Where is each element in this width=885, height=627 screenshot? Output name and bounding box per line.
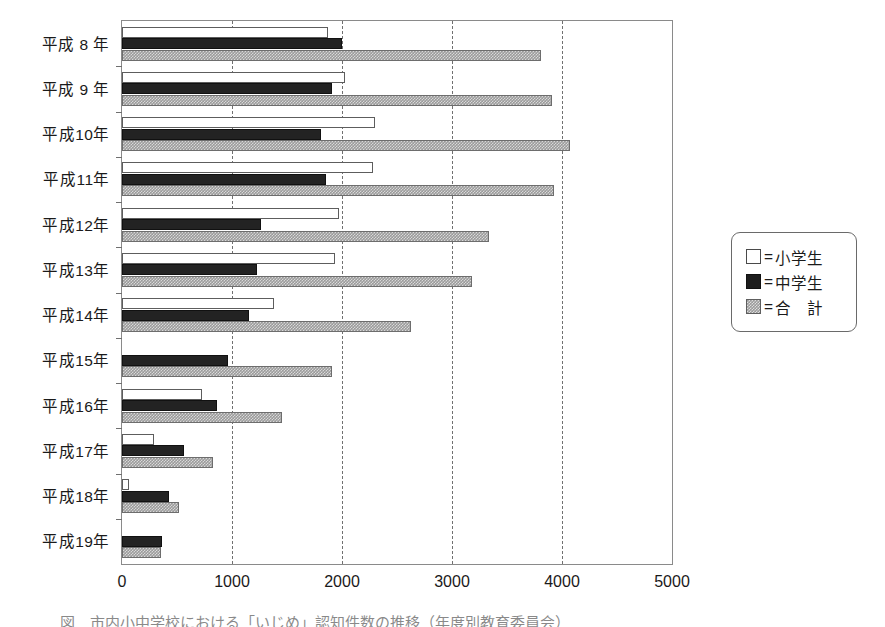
y-axis-tick	[116, 112, 122, 113]
y-axis-tick	[116, 519, 122, 520]
bar-group	[122, 293, 672, 338]
bar-goukei	[122, 276, 472, 287]
bar-shogakusei	[122, 72, 345, 83]
legend-equals-sign: =	[764, 248, 773, 266]
y-axis-tick	[116, 428, 122, 429]
bar-shogakusei	[122, 253, 335, 264]
bar-shogakusei	[122, 389, 202, 400]
bar-chugakusei	[122, 491, 169, 502]
y-axis-label: 平成13年	[42, 258, 110, 280]
bar-group	[122, 428, 672, 473]
bar-goukei	[122, 412, 282, 423]
y-axis-tick	[116, 474, 122, 475]
x-axis-tick-label: 1000	[214, 573, 250, 591]
bar-group	[122, 519, 672, 564]
bar-goukei	[122, 502, 179, 513]
bar-group	[122, 157, 672, 202]
bar-shogakusei	[122, 27, 328, 38]
bar-chugakusei	[122, 174, 326, 185]
x-axis-tick-label: 5000	[654, 573, 690, 591]
bar-shogakusei	[122, 117, 375, 128]
bar-chugakusei	[122, 83, 332, 94]
y-axis-tick	[116, 202, 122, 203]
y-axis-tick	[116, 66, 122, 67]
bar-goukei	[122, 50, 541, 61]
bar-goukei	[122, 95, 552, 106]
bar-goukei	[122, 231, 489, 242]
bar-shogakusei	[122, 208, 339, 219]
legend-label: 中学生	[775, 271, 823, 293]
y-axis-label: 平成 9 年	[42, 77, 110, 99]
bar-chugakusei	[122, 400, 217, 411]
legend-label: 合 計	[775, 296, 823, 318]
y-axis-label: 平成18年	[42, 484, 110, 506]
bar-shogakusei	[122, 298, 274, 309]
bar-shogakusei	[122, 434, 154, 445]
x-axis-tick-label: 3000	[434, 573, 470, 591]
bar-chugakusei	[122, 536, 162, 547]
x-axis-tick-label: 2000	[324, 573, 360, 591]
bar-shogakusei	[122, 162, 373, 173]
chart-figure: 平成 8 年平成 9 年平成10年平成11年平成12年平成13年平成14年平成1…	[0, 0, 885, 627]
bar-goukei	[122, 140, 570, 151]
black-square-icon	[746, 274, 761, 289]
bar-group	[122, 338, 672, 383]
y-axis-label: 平成19年	[42, 529, 110, 551]
bar-group	[122, 112, 672, 157]
y-axis-tick	[116, 293, 122, 294]
y-axis-label-group: 平成 8 年平成 9 年平成10年平成11年平成12年平成13年平成14年平成1…	[0, 20, 118, 565]
bar-chugakusei	[122, 38, 342, 49]
legend-item: =合 計	[746, 294, 846, 319]
bar-chugakusei	[122, 310, 249, 321]
y-axis-tick	[116, 157, 122, 158]
bar-group	[122, 202, 672, 247]
chart-legend: =小学生=中学生=合 計	[731, 232, 857, 332]
y-axis-label: 平成14年	[42, 303, 110, 325]
bar-goukei	[122, 185, 554, 196]
bar-goukei	[122, 321, 411, 332]
legend-item: =小学生	[746, 244, 846, 269]
legend-equals-sign: =	[764, 273, 773, 291]
plot-area	[121, 20, 673, 565]
y-axis-label: 平成 8 年	[42, 32, 110, 54]
bar-goukei	[122, 547, 161, 558]
bar-chugakusei	[122, 264, 257, 275]
y-axis-tick	[116, 383, 122, 384]
hatched-square-icon	[746, 299, 761, 314]
bar-group	[122, 21, 672, 66]
y-axis-label: 平成17年	[42, 439, 110, 461]
bar-chugakusei	[122, 445, 184, 456]
x-axis-tick-label: 4000	[544, 573, 580, 591]
bar-chugakusei	[122, 219, 261, 230]
bar-group	[122, 383, 672, 428]
bar-goukei	[122, 366, 332, 377]
y-axis-tick	[116, 338, 122, 339]
bar-goukei	[122, 457, 213, 468]
y-axis-label: 平成11年	[43, 167, 110, 189]
bar-group	[122, 66, 672, 111]
x-axis-tick-label: 0	[118, 573, 127, 591]
bar-chugakusei	[122, 129, 321, 140]
y-axis-label: 平成16年	[42, 394, 110, 416]
bar-group	[122, 474, 672, 519]
bar-shogakusei	[122, 479, 129, 490]
legend-item: =中学生	[746, 269, 846, 294]
y-axis-label: 平成10年	[42, 122, 110, 144]
legend-label: 小学生	[775, 246, 823, 268]
legend-equals-sign: =	[764, 298, 773, 316]
x-axis-label-group: 010002000300040005000	[0, 573, 885, 599]
y-axis-label: 平成12年	[42, 213, 110, 235]
y-axis-tick	[116, 247, 122, 248]
y-axis-label: 平成15年	[42, 348, 110, 370]
figure-caption: 図 市内小中学校における「いじめ」認知件数の推移（年度別教育委員会）	[60, 611, 820, 627]
bar-group	[122, 247, 672, 292]
white-square-icon	[746, 249, 761, 264]
bar-chugakusei	[122, 355, 228, 366]
